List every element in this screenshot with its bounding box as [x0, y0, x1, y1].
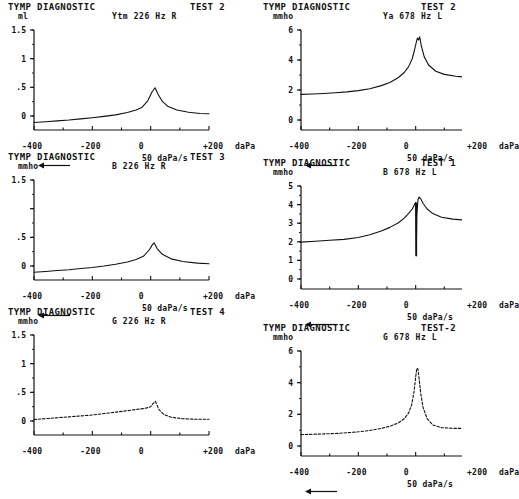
x-axis-unit-label: daPa — [499, 468, 519, 477]
panel-title: TYMP DIAGNOSTIC — [8, 152, 95, 162]
x-tick-label-row: -400-2000+200daPa — [0, 447, 231, 459]
y-axis-unit-label: mmho — [273, 333, 293, 342]
tympanogram-plot: 6420 — [255, 24, 462, 142]
y-tick-label: 1.5 — [12, 176, 27, 185]
y-tick-label: 0 — [21, 417, 26, 426]
y-tick-label: 4 — [288, 56, 293, 65]
x-tick-label-row: -400-2000+200daPa — [255, 468, 462, 480]
x-tick-label: +200 — [203, 292, 223, 301]
y-axis-unit-label: mmho — [273, 168, 293, 177]
test-label: TEST 2 — [421, 2, 456, 12]
x-tick-label: +200 — [467, 301, 487, 310]
x-tick-label: 0 — [139, 142, 144, 151]
y-tick-label: .5 — [16, 83, 26, 92]
x-axis-unit-label: daPa — [235, 142, 255, 151]
panel-title: TYMP DIAGNOSTIC — [8, 307, 95, 317]
x-tick-label: 0 — [139, 447, 144, 456]
y-tick-label: 6 — [288, 26, 293, 35]
panel-header: TYMP DIAGNOSTICTEST 4mmhoG 226 Hz R — [0, 307, 231, 329]
tympanogram-trace — [301, 37, 462, 94]
y-tick-label: 0 — [288, 442, 293, 451]
panel-title: TYMP DIAGNOSTIC — [263, 158, 350, 168]
panel-header: TYMP DIAGNOSTICTEST 3mmhoB 226 Hz R — [0, 152, 231, 174]
tympanogram-plot: 543210 — [255, 180, 462, 301]
x-tick-label: -400 — [22, 447, 42, 456]
x-tick-label: -200 — [346, 468, 366, 477]
y-tick-label: 1 — [21, 55, 26, 64]
y-tick-label: 2 — [288, 238, 293, 247]
y-tick-label: 1.5 — [12, 26, 27, 35]
panel-title: TYMP DIAGNOSTIC — [263, 2, 350, 12]
y-tick-label: 0 — [21, 112, 26, 121]
tympanogram-trace — [34, 243, 209, 272]
y-tick-label: 1 — [21, 360, 26, 369]
tymp-panel-panel-test4-226: TYMP DIAGNOSTICTEST 4mmhoG 226 Hz R1.51.… — [0, 307, 231, 459]
y-tick-label: 2 — [288, 410, 293, 419]
tympanogram-trace — [301, 197, 462, 256]
tympanogram-plot: 1.51.50 — [0, 24, 231, 142]
measurement-parameter-label: Ytm 226 Hz R — [112, 12, 177, 21]
tympanogram-plot: 1.5.50 — [0, 174, 231, 292]
sweep-rate-label: 50 daPa/s — [407, 313, 453, 322]
x-tick-label: -400 — [289, 468, 309, 477]
y-tick-label: 4 — [288, 379, 293, 388]
tymp-panel-panel-test1-678: TYMP DIAGNOSTICTEST 1mmhoB 678 Hz L54321… — [255, 158, 462, 325]
x-tick-label: +200 — [203, 142, 223, 151]
measurement-parameter-label: G 678 Hz L — [383, 333, 437, 342]
x-axis-unit-label: daPa — [499, 142, 519, 151]
x-tick-label: +200 — [467, 142, 487, 151]
test-label: TEST 4 — [190, 307, 225, 317]
x-tick-label: -400 — [22, 142, 42, 151]
x-tick-label-row: -400-2000+200daPa — [0, 292, 231, 304]
x-axis-unit-label: daPa — [235, 292, 255, 301]
x-tick-label: -400 — [289, 142, 309, 151]
x-tick-label: +200 — [467, 468, 487, 477]
y-tick-label: .5 — [16, 233, 26, 242]
y-axis-unit-label: mmho — [273, 12, 293, 21]
tympanogram-plot: 6420 — [255, 345, 462, 468]
y-tick-label: 0 — [288, 275, 293, 284]
sweep-rate-label: 50 daPa/s — [407, 480, 453, 489]
x-tick-label-row: -400-2000+200daPa — [255, 301, 462, 313]
sweep-direction-arrow-icon — [305, 481, 339, 499]
y-tick-label: 5 — [288, 182, 293, 191]
panel-header: TYMP DIAGNOSTICTEST-2mmhoG 678 Hz L — [255, 323, 462, 345]
tympanogram-trace — [301, 368, 462, 434]
x-tick-label: -200 — [80, 292, 100, 301]
y-tick-label: 0 — [288, 116, 293, 125]
test-label: TEST 2 — [190, 2, 225, 12]
test-label: TEST 3 — [190, 152, 225, 162]
panel-header: TYMP DIAGNOSTICTEST 2mmhoYa 678 Hz L — [255, 2, 462, 24]
x-tick-label: -200 — [346, 301, 366, 310]
measurement-parameter-label: B 226 Hz R — [112, 162, 166, 171]
x-tick-label: 0 — [404, 142, 409, 151]
x-tick-label: +200 — [203, 447, 223, 456]
panel-header: TYMP DIAGNOSTICTEST 1mmhoB 678 Hz L — [255, 158, 462, 180]
panel-header: TYMP DIAGNOSTICTEST 2mlYtm 226 Hz R — [0, 2, 231, 24]
y-axis-unit-label: mmho — [18, 162, 38, 171]
x-tick-label-row: -400-2000+200daPa — [255, 142, 462, 154]
y-axis-unit-label: ml — [18, 12, 28, 21]
x-tick-label: -400 — [22, 292, 42, 301]
y-tick-label: 1.5 — [12, 331, 27, 340]
measurement-parameter-label: G 226 Hz R — [112, 317, 166, 326]
measurement-parameter-label: B 678 Hz L — [383, 168, 437, 177]
y-tick-label: 3 — [288, 219, 293, 228]
tymp-panel-panel-test3-226: TYMP DIAGNOSTICTEST 3mmhoB 226 Hz R1.5.5… — [0, 152, 231, 316]
x-tick-label: 0 — [404, 468, 409, 477]
tymp-panel-panel-test2b-678: TYMP DIAGNOSTICTEST-2mmhoG 678 Hz L6420-… — [255, 323, 462, 492]
x-tick-label: 0 — [139, 292, 144, 301]
tympanogram-trace — [34, 401, 209, 419]
y-tick-label: 0 — [21, 262, 26, 271]
y-tick-label: 4 — [288, 201, 293, 210]
tymp-panel-panel-test2-678: TYMP DIAGNOSTICTEST 2mmhoYa 678 Hz L6420… — [255, 2, 462, 166]
x-tick-label: -200 — [80, 447, 100, 456]
panel-title: TYMP DIAGNOSTIC — [263, 323, 350, 333]
y-axis-unit-label: mmho — [18, 317, 38, 326]
x-tick-label: -200 — [346, 142, 366, 151]
tympanogram-plot: 1.51.50 — [0, 329, 231, 447]
y-tick-label: .5 — [16, 388, 26, 397]
y-tick-label: 1 — [288, 256, 293, 265]
x-tick-label: 0 — [404, 301, 409, 310]
